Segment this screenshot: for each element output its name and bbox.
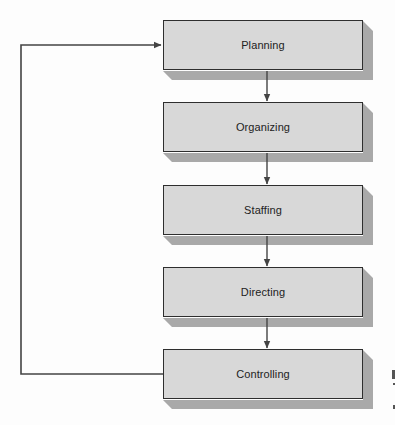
step-controlling: Controlling <box>163 349 363 399</box>
step-box: Organizing <box>163 102 363 152</box>
management-cycle-diagram: Planning Organizing Staffing Directing C… <box>0 0 395 425</box>
step-box: Planning <box>163 20 363 70</box>
step-label: Controlling <box>236 368 290 380</box>
step-staffing: Staffing <box>163 185 363 235</box>
step-box: Controlling <box>163 349 363 399</box>
step-label: Directing <box>241 286 285 298</box>
step-label: Planning <box>241 39 285 51</box>
feedback-loop-arrow <box>21 45 163 374</box>
step-label: Staffing <box>244 204 282 216</box>
step-directing: Directing <box>163 267 363 317</box>
step-box: Directing <box>163 267 363 317</box>
step-box: Staffing <box>163 185 363 235</box>
step-planning: Planning <box>163 20 363 70</box>
step-organizing: Organizing <box>163 102 363 152</box>
step-label: Organizing <box>236 121 290 133</box>
